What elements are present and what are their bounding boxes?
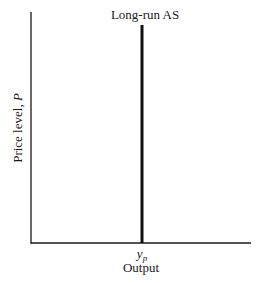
y-axis-label: Price level, P [10, 93, 25, 163]
lras-diagram: Long-run AS Price level, P yp Output [0, 0, 269, 283]
svg-text:Price level, P: Price level, P [10, 93, 25, 163]
long-run-as-label: Long-run AS [111, 7, 179, 22]
x-axis-label: Output [123, 260, 160, 275]
